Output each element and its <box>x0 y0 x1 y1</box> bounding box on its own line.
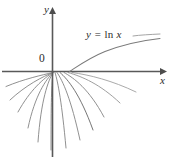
label-leader-line <box>133 34 160 36</box>
fan-curve-12 <box>72 73 136 93</box>
equation-argument: x <box>114 28 122 40</box>
fan-curve-10 <box>64 73 104 118</box>
curve-family <box>6 73 136 151</box>
math-figure: y x 0 y = ln x <box>0 0 171 158</box>
origin-label: 0 <box>39 53 45 65</box>
equation-label: y = ln x <box>86 29 122 40</box>
equation-function-name: ln <box>105 28 114 40</box>
y-axis-arrow-icon <box>49 7 56 14</box>
x-axis-label: x <box>160 75 165 86</box>
fan-curve-7 <box>55 73 66 149</box>
equation-lhs: y = <box>86 28 105 40</box>
ln-curve <box>70 39 161 72</box>
fan-curve-8 <box>57 73 80 141</box>
axes <box>2 7 167 157</box>
y-axis-label: y <box>44 4 49 15</box>
plot-canvas <box>0 0 171 158</box>
